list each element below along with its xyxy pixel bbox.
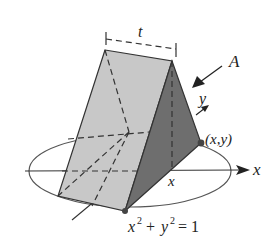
svg-text:+: + — [146, 218, 155, 235]
svg-text:x: x — [127, 218, 135, 235]
circle-equation: x 2 + y 2 = 1 — [127, 215, 199, 236]
thickness-label: t — [138, 23, 143, 40]
svg-text:y: y — [159, 218, 169, 236]
x-position-label: x — [167, 173, 175, 189]
cross-section-arrow-line — [200, 66, 222, 82]
bottom-point-dot — [122, 208, 128, 214]
x-axis-label: x — [252, 160, 261, 179]
cross-section-label: A — [228, 52, 240, 71]
point-xy-dot — [198, 140, 205, 147]
svg-text:= 1: = 1 — [178, 218, 199, 235]
cross-section-arrow-icon — [192, 76, 205, 88]
point-label: (x,y) — [205, 131, 232, 148]
svg-text:2: 2 — [137, 215, 142, 226]
solid-diagram: t A y x x (x,y) x 2 + y 2 = 1 — [0, 0, 280, 244]
svg-text:2: 2 — [170, 215, 175, 226]
y-axis-label: y — [197, 90, 207, 108]
